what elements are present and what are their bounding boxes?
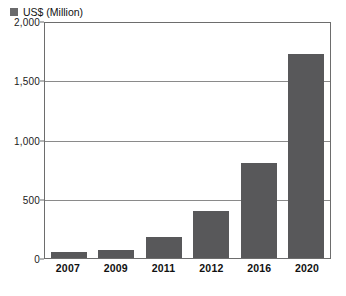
bar-slot [235,23,283,258]
x-axis-tick-label: 2020 [283,262,331,278]
bar-2007 [51,252,87,258]
x-axis-tick-label: 2007 [44,262,92,278]
bar-2011 [146,237,182,258]
y-axis-tick-label: 1,500 [14,76,40,87]
plot-area [44,22,331,259]
y-axis-tick-label: 500 [23,194,40,205]
bar-slot [283,23,331,258]
x-axis: 200720092011201220162020 [44,262,331,278]
bar-slot [140,23,188,258]
bar-chart-figure: US$ (Million) 05001,0001,5002,000 200720… [0,0,346,296]
bar-2012 [193,211,229,258]
bar-2016 [241,163,277,258]
bar-2020 [288,54,324,258]
legend-swatch-icon [10,8,18,16]
y-axis-tick-label: 1,000 [14,135,40,146]
figure-caption-clipped [0,289,346,296]
bar-series [45,23,330,258]
x-axis-tick-label: 2012 [187,262,235,278]
y-axis: 05001,0001,5002,000 [0,22,40,259]
bar-slot [188,23,236,258]
x-axis-tick-label: 2009 [92,262,140,278]
bar-slot [45,23,93,258]
bar-2009 [98,250,134,258]
x-axis-tick-label: 2011 [140,262,188,278]
x-axis-tick-label: 2016 [235,262,283,278]
y-axis-tick-label: 2,000 [14,17,40,28]
bar-slot [93,23,141,258]
